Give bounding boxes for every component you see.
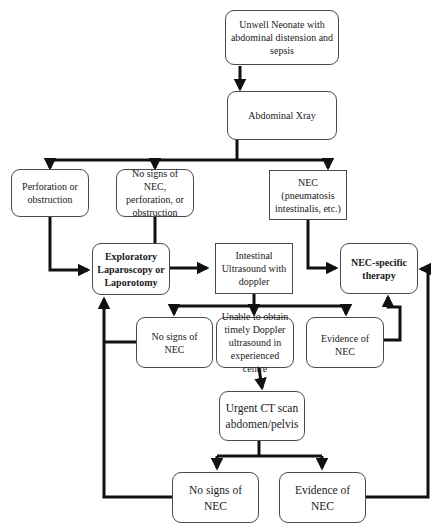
edge-evidence-ct-therapy xyxy=(366,269,428,497)
node-exploratory-laparotomy: Exploratory Laparoscopy or Laporotomy xyxy=(92,243,170,295)
edge-evidence-therapy xyxy=(384,297,400,340)
node-no-signs-ct: No signs of NEC xyxy=(172,472,259,523)
node-nec-specific-therapy: NEC-specific therapy xyxy=(340,243,418,294)
node-unable-doppler: Unable to obtain timely Doppler ultrasou… xyxy=(216,317,294,368)
node-start: Unwell Neonate with abdominal distension… xyxy=(225,10,339,65)
node-intestinal-ultrasound: Intestinal Ultrasound with doppler xyxy=(215,243,293,294)
node-urgent-ct: Urgent CT scan abdomen/pelvis xyxy=(219,391,305,441)
edge-nec-therapy xyxy=(308,219,336,268)
node-perforation-obstruction: Perforation or obstruction xyxy=(11,169,89,217)
node-no-signs-us: No signs of NEC xyxy=(136,317,213,368)
edge-perforation-laparotomy xyxy=(50,216,88,270)
node-evidence-ct: Evidence of NEC xyxy=(279,472,366,523)
node-abdominal-xray: Abdominal Xray xyxy=(227,91,337,140)
node-no-signs-xray: No signs of NEC, perforation, or obstruc… xyxy=(116,169,194,217)
flowchart: Unwell Neonate with abdominal distension… xyxy=(0,0,441,532)
node-evidence-us: Evidence of NEC xyxy=(306,317,384,368)
node-nec-pneumatosis: NEC (pneumatosis intestinalis, etc.) xyxy=(269,170,347,220)
